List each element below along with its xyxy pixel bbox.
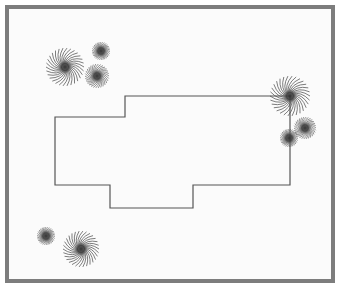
dot-top-left-lower bbox=[85, 64, 109, 88]
figure-canvas bbox=[0, 0, 348, 297]
marker-core bbox=[73, 241, 89, 257]
marker-core bbox=[39, 229, 54, 244]
site-plan-svg bbox=[0, 0, 348, 297]
pinwheel-right-small bbox=[294, 117, 316, 139]
marker-core bbox=[57, 59, 73, 75]
marker-core bbox=[282, 88, 298, 104]
marker-core bbox=[298, 121, 313, 136]
pinwheel-top-left-large bbox=[46, 48, 84, 86]
dot-top-left-upper bbox=[92, 42, 110, 60]
drawing-layer bbox=[0, 0, 348, 297]
building-footprint bbox=[55, 96, 290, 208]
pinwheel-bottom-left bbox=[63, 231, 99, 267]
marker-core bbox=[282, 131, 297, 146]
dot-right-inner bbox=[280, 129, 298, 147]
marker-core bbox=[94, 44, 109, 59]
dot-bottom-left bbox=[37, 227, 55, 245]
marker-core bbox=[90, 69, 105, 84]
